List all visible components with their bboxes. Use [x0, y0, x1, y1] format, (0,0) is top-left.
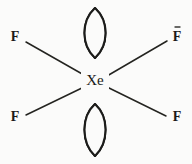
structure-canvas: Xe F F F F	[0, 0, 192, 164]
bond-line-top-right	[107, 41, 167, 76]
terminal-atom-label-top-right: F	[173, 29, 182, 44]
bond-line-bottom-left	[26, 87, 84, 115]
lone-pair-top	[74, 2, 118, 64]
bond-line-top-left	[26, 42, 84, 75]
central-atom-label: Xe	[86, 72, 104, 88]
terminal-atom-label-bottom-right: F	[173, 109, 182, 124]
lone-pair-top-border	[85, 8, 106, 58]
bond-line-bottom-right	[107, 87, 166, 116]
chemical-structure-diagram: Xe F F F F	[0, 0, 192, 164]
terminal-atom-label-top-left: F	[11, 29, 20, 44]
lone-pair-bottom	[74, 98, 118, 162]
terminal-atom-label-bottom-left: F	[11, 109, 20, 124]
lone-pair-bottom-border	[85, 104, 106, 156]
